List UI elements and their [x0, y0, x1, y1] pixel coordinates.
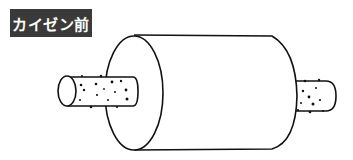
- right-shaft: [296, 81, 336, 111]
- roller-diagram: [0, 0, 353, 160]
